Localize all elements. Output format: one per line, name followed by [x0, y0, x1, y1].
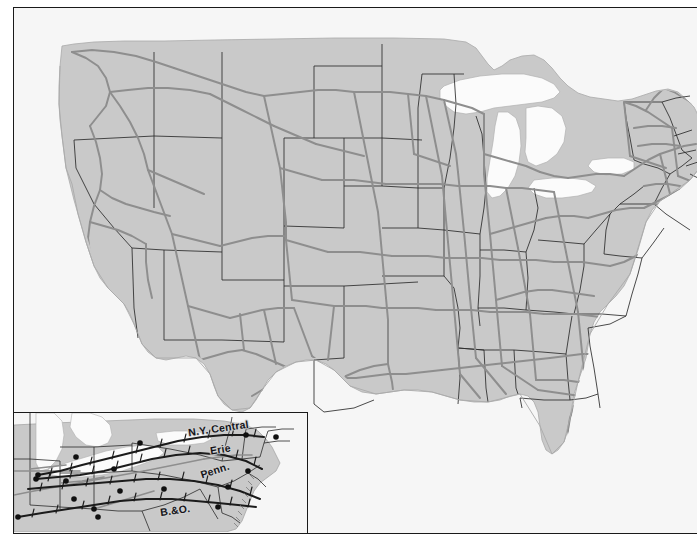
city-dot — [117, 488, 123, 494]
city-dot — [71, 496, 77, 502]
city-dot — [225, 484, 231, 490]
city-dot — [273, 434, 279, 440]
city-dot — [215, 504, 221, 510]
city-dot — [91, 506, 97, 512]
northeast-trunk-lines-map — [14, 413, 306, 532]
city-dot — [161, 486, 167, 492]
city-dot — [245, 468, 251, 474]
inset-map-frame — [13, 412, 308, 534]
city-dot — [63, 478, 69, 484]
city-dot — [73, 454, 79, 460]
city-dot — [95, 514, 101, 520]
map-page: N.Y. Central Erie Penn. B.&O. — [0, 0, 697, 540]
city-dot — [137, 440, 143, 446]
city-dot — [111, 466, 117, 472]
city-dot — [15, 514, 21, 520]
city-dot — [243, 432, 249, 438]
city-dot — [35, 472, 41, 478]
